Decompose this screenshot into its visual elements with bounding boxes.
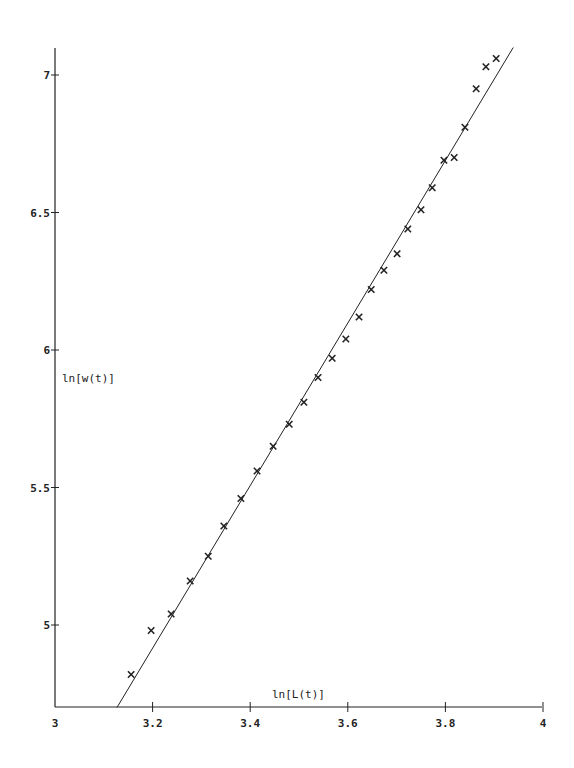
x-tick-label: 3.4 <box>240 717 260 730</box>
fit-line-segment <box>117 48 513 708</box>
x-marker <box>405 226 411 232</box>
x-marker <box>128 671 134 677</box>
x-tick-label: 3 <box>52 717 59 730</box>
x-marker <box>356 314 362 320</box>
x-tick-label: 3.2 <box>143 717 163 730</box>
data-points <box>128 55 499 677</box>
x-marker <box>493 55 499 61</box>
x-marker <box>394 251 400 257</box>
y-tick-label: 5.5 <box>30 482 50 495</box>
scatter-chart: 33.23.43.63.8455.566.57 ln[L(t)] ln[w(t)… <box>0 0 574 768</box>
x-marker <box>301 399 307 405</box>
x-marker <box>381 267 387 273</box>
x-marker <box>343 336 349 342</box>
x-marker <box>368 286 374 292</box>
x-marker <box>329 355 335 361</box>
axes: 33.23.43.63.8455.566.57 <box>30 48 547 730</box>
fit-line <box>117 48 513 708</box>
x-marker <box>462 124 468 130</box>
x-marker <box>270 443 276 449</box>
x-tick-label: 3.6 <box>338 717 358 730</box>
x-tick-label: 4 <box>540 717 547 730</box>
x-marker <box>473 86 479 92</box>
y-tick-label: 6 <box>43 344 50 357</box>
x-marker <box>483 64 489 70</box>
y-tick-label: 5 <box>43 619 50 632</box>
x-tick-label: 3.8 <box>435 717 455 730</box>
x-marker <box>451 154 457 160</box>
x-marker <box>315 374 321 380</box>
y-tick-label: 7 <box>43 69 50 82</box>
x-axis-title: ln[L(t)] <box>272 688 325 701</box>
x-marker <box>429 185 435 191</box>
x-marker <box>148 627 154 633</box>
y-axis-title: ln[w(t)] <box>62 372 115 385</box>
x-marker <box>205 553 211 559</box>
y-tick-label: 6.5 <box>30 207 50 220</box>
x-marker <box>418 207 424 213</box>
